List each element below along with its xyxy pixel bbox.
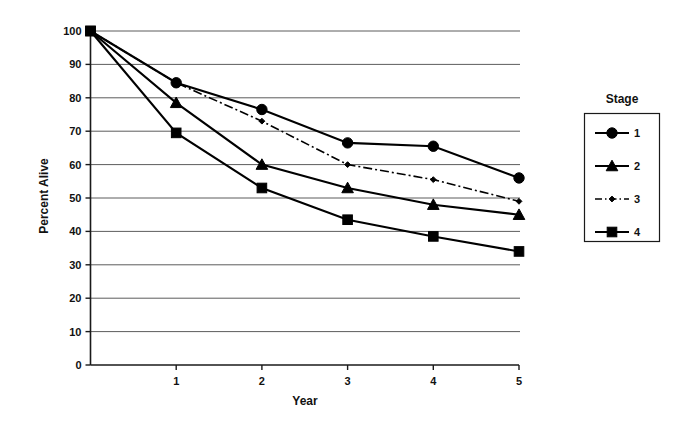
data-point-stage-3-year-5	[516, 198, 522, 204]
legend-entry-1[interactable]: 1	[595, 127, 640, 139]
legend-entry-2[interactable]: 2	[595, 160, 640, 172]
y-tick-label: 70	[69, 125, 81, 137]
data-point-stage-4-year-2	[257, 183, 267, 193]
x-tick-label: 4	[430, 375, 437, 387]
y-tick-label: 80	[69, 92, 81, 104]
data-point-stage-4-year-1	[171, 128, 181, 138]
series-stage-2	[91, 31, 525, 219]
data-point-stage-3-year-2	[259, 118, 265, 124]
square-icon	[607, 227, 617, 237]
legend-label-1: 1	[634, 127, 640, 139]
y-tick-label: 10	[69, 326, 81, 338]
legend-entry-3[interactable]: 3	[595, 193, 640, 205]
y-axis-ticks: 0102030405060708090100	[63, 25, 90, 371]
data-point-stage-1-year-4	[428, 141, 438, 151]
data-series	[86, 26, 525, 256]
y-tick-label: 0	[75, 359, 81, 371]
y-axis-title: Percent Alive	[37, 158, 51, 234]
x-axis-title: Year	[292, 394, 318, 408]
data-point-origin	[86, 26, 96, 36]
data-point-stage-3-year-3	[345, 162, 351, 168]
y-tick-label: 40	[69, 225, 81, 237]
y-tick-label: 50	[69, 192, 81, 204]
y-tick-label: 100	[63, 25, 81, 37]
legend-label-2: 2	[634, 160, 640, 172]
series-stage-3	[91, 31, 522, 204]
chart-container: 0102030405060708090100 12345 Year Percen…	[0, 0, 681, 432]
legend: Stage 1234	[585, 92, 660, 242]
x-tick-label: 2	[259, 375, 265, 387]
legend-title: Stage	[606, 92, 639, 106]
series-line-stage-1	[91, 31, 520, 178]
survival-line-chart: 0102030405060708090100 12345 Year Percen…	[0, 0, 681, 432]
data-point-stage-3-year-4	[430, 177, 436, 183]
x-tick-label: 3	[345, 375, 351, 387]
data-point-stage-4-year-3	[343, 215, 353, 225]
circle-icon	[607, 128, 617, 138]
y-tick-label: 90	[69, 58, 81, 70]
legend-entry-4[interactable]: 4	[595, 226, 641, 238]
data-point-stage-4-year-4	[429, 232, 439, 242]
x-tick-label: 5	[516, 375, 522, 387]
data-point-stage-4-year-5	[514, 247, 524, 257]
legend-label-3: 3	[634, 193, 640, 205]
y-tick-label: 20	[69, 292, 81, 304]
gridlines	[91, 31, 521, 332]
data-point-stage-1-year-3	[342, 138, 352, 148]
series-line-stage-2	[91, 31, 520, 215]
data-point-stage-1-year-2	[257, 104, 267, 114]
x-tick-label: 1	[173, 375, 179, 387]
series-stage-4	[86, 26, 524, 256]
diamond-icon	[609, 196, 615, 202]
legend-label-4: 4	[634, 226, 641, 238]
data-point-stage-1-year-5	[514, 173, 524, 183]
y-tick-label: 60	[69, 159, 81, 171]
legend-entries: 1234	[595, 127, 641, 238]
x-axis-ticks: 12345	[173, 365, 522, 387]
y-tick-label: 30	[69, 259, 81, 271]
